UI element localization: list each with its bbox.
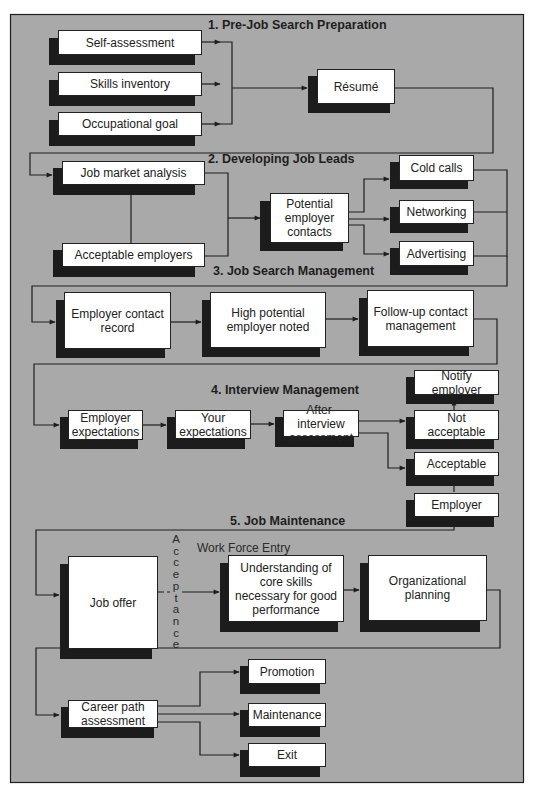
section-4-title: 4. Interview Management [211,383,359,397]
node-exit: Exit [248,743,326,767]
work-force-entry-label: Work Force Entry [197,541,290,555]
node-your-expectations: Your expectations [175,410,251,439]
node-not-acceptable: Not acceptable [414,410,499,440]
node-potential-employer-contacts: Potential employer contacts [270,193,349,243]
node-follow-up-contact-management: Follow-up contact management [367,290,474,347]
node-acceptable-employers: Acceptable employers [62,243,205,267]
job-search-flowchart: 1. Pre-Job Search Preparation 2. Develop… [0,0,535,794]
section-5-title: 5. Job Maintenance [230,514,345,528]
node-job-market-analysis: Job market analysis [62,161,205,185]
node-acceptable: Acceptable [414,452,499,476]
node-self-assessment: Self-assessment [58,30,202,55]
section-3-title: 3. Job Search Management [213,264,374,278]
section-1-title: 1. Pre-Job Search Preparation [208,18,387,32]
node-after-interview-assessment: After-interview assessment [283,410,359,437]
node-employer-contact-record: Employer contact record [64,292,171,349]
node-employer-expectations: Employer expectations [68,410,143,440]
node-employer: Employer [414,493,499,517]
section-2-title: 2. Developing Job Leads [208,152,355,166]
node-skills-inventory: Skills inventory [58,72,202,96]
node-organizational-planning: Organizational planning [368,555,487,621]
node-resume: Résumé [317,69,395,104]
node-cold-calls: Cold calls [399,155,474,181]
node-maintenance: Maintenance [248,703,326,727]
node-advertising: Advertising [399,241,474,266]
node-occupational-goal: Occupational goal [58,112,202,136]
node-high-potential-employer-noted: High potential employer noted [210,292,326,348]
node-understanding-core-skills: Understanding of core skills necessary f… [228,555,344,622]
node-job-offer: Job offer [68,556,158,649]
acceptance-label: A c c e p t a n c e [171,534,181,651]
node-notify-employer: Notify employer [414,370,499,395]
node-career-path-assessment: Career path assessment [68,700,158,728]
node-promotion: Promotion [248,659,326,684]
node-networking: Networking [399,200,474,224]
